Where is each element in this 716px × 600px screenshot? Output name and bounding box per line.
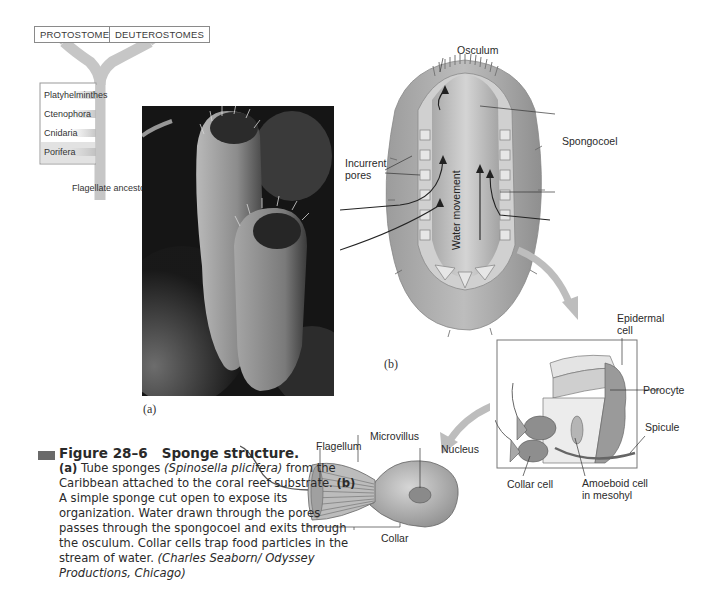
figure-caption: Figure 28–6 Sponge structure. (a) Tube s… xyxy=(59,446,359,581)
phylum-platyhelminthes: Platyhelminthes xyxy=(44,90,108,100)
inset-illustration xyxy=(495,338,675,478)
caption-part-b-tag: (b) xyxy=(336,476,355,490)
phylum-cnidaria: Cnidaria xyxy=(44,128,78,138)
osculum-label: Osculum xyxy=(457,44,498,56)
collar-cell-label: Collar cell xyxy=(507,478,553,490)
spongocoel-label: Spongocoel xyxy=(562,135,617,147)
microvillus-label: Microvillus xyxy=(370,430,419,442)
photo-label-a: (a) xyxy=(143,402,156,417)
amoeboid-cell-label: Amoeboid cell in mesohyl xyxy=(582,477,654,501)
species-name: (Spinosella plicifera) xyxy=(164,461,282,475)
figure-title: Figure 28–6 Sponge structure. xyxy=(59,446,359,461)
diagram-label-b: (b) xyxy=(384,357,398,372)
phylum-porifera: Porifera xyxy=(44,147,76,157)
flagellate-ancestor-label: Flagellate ancestor xyxy=(72,183,148,193)
sponge-body: Water movement xyxy=(340,40,580,340)
figure-marker xyxy=(38,451,55,460)
phylum-ctenophora: Ctenophora xyxy=(44,109,91,119)
deuterostomes-label: DEUTEROSTOMES xyxy=(109,26,210,43)
tube-sponge-illustration xyxy=(142,106,334,396)
caption-part-a-tag: (a) xyxy=(59,461,77,475)
spicule-label: Spicule xyxy=(645,421,679,433)
porocyte-label: Porocyte xyxy=(643,384,684,396)
collar-label: Collar xyxy=(381,532,408,544)
water-movement-label: Water movement xyxy=(450,170,462,250)
sponge-photo xyxy=(142,106,334,396)
nucleus-label: Nucleus xyxy=(441,443,479,455)
epidermal-cell-label: Epidermal cell xyxy=(617,312,663,336)
incurrent-pores-label: Incurrent pores xyxy=(345,157,386,181)
